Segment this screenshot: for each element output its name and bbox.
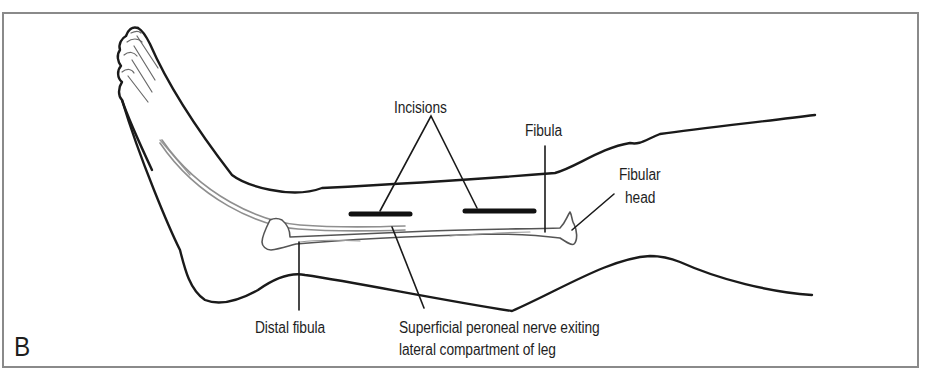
fibular-head-leader [572, 194, 614, 230]
panel-letter: B [14, 332, 30, 362]
label-fibular-head-line2: head [625, 187, 655, 208]
toe-contour [118, 27, 152, 170]
incisions [351, 211, 534, 214]
label-fibular-head-line1: Fibular [619, 164, 660, 185]
label-incisions: Incisions [394, 97, 447, 118]
dorsal-contour [138, 28, 815, 192]
nerve-leader [392, 227, 424, 308]
label-nerve-line1: Superficial peroneal nerve exiting [399, 317, 600, 338]
label-distal-fibula: Distal fibula [255, 317, 325, 338]
heel-contour [122, 100, 812, 311]
label-nerve-line2: lateral compartment of leg [399, 339, 556, 360]
incisions-leader [380, 116, 477, 211]
label-fibula: Fibula [525, 120, 562, 141]
toe-creases [122, 32, 190, 176]
fibula-bone [262, 212, 577, 250]
leg-outline [118, 27, 815, 311]
